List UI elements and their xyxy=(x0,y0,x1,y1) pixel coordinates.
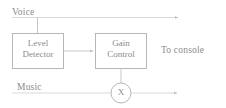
level-detector-label-line2: Detector xyxy=(13,49,63,60)
to-console-output-label: To console xyxy=(161,45,204,56)
block-diagram: Voice Music To console Level Detector Ga… xyxy=(0,0,226,108)
level-detector-label: Level Detector xyxy=(13,38,63,60)
gain-control-label-line1: Gain xyxy=(96,38,146,49)
music-input-label: Music xyxy=(17,82,42,93)
gain-control-label-line2: Control xyxy=(96,49,146,60)
voice-input-label: Voice xyxy=(12,7,34,18)
multiplier-symbol-label: X xyxy=(111,87,131,97)
gain-control-label: Gain Control xyxy=(96,38,146,60)
level-detector-label-line1: Level xyxy=(13,38,63,49)
